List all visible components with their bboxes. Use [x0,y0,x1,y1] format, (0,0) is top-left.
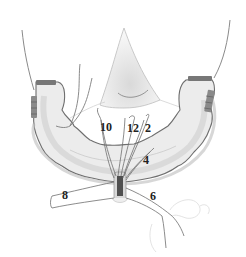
label-2: 2 [145,122,151,134]
anastomosis [112,172,128,203]
label-4: 4 [143,154,149,166]
label-8: 8 [62,189,68,201]
anatomical-diagram [0,0,246,257]
label-10: 10 [100,121,112,133]
label-6: 6 [150,190,156,202]
label-12: 12 [127,122,139,134]
